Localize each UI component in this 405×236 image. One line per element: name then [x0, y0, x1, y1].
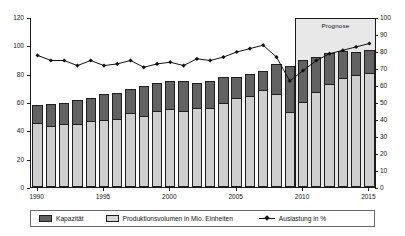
y-tick-label-right: 10	[380, 167, 387, 174]
auslastung-data-point	[181, 64, 185, 68]
y-tick-label-right: 80	[380, 48, 387, 55]
auslastung-data-point	[208, 58, 212, 62]
legend-label-kapazitaet: Kapazität	[56, 215, 84, 222]
x-tick-label: 2000	[162, 193, 176, 200]
auslastung-data-point	[89, 58, 93, 62]
y-tick-label-right: 90	[380, 31, 387, 38]
chart-legend: Kapazität Produktionsvolumen in Mio. Ein…	[30, 210, 375, 227]
auslastung-data-point	[155, 62, 159, 66]
kapazitaet-swatch-icon	[39, 215, 52, 222]
y-tick-label-right: 50	[380, 99, 387, 106]
y-tick-label-right: 20	[380, 150, 387, 157]
auslastung-data-point	[36, 53, 40, 57]
auslastung-data-point	[367, 41, 371, 45]
x-tick-label: 2015	[361, 193, 375, 200]
auslastung-data-point	[75, 64, 79, 68]
auslastung-line	[38, 44, 370, 81]
plot-area: Prognose	[30, 18, 375, 188]
auslastung-data-point	[62, 58, 66, 62]
x-tick-label: 2010	[295, 193, 309, 200]
auslastung-data-point	[327, 52, 331, 56]
legend-item-auslastung[interactable]: Auslastung in %	[259, 211, 326, 226]
y-tick-label-right: 100	[380, 14, 391, 21]
y-tick-label-left: 60	[2, 99, 24, 106]
y-tick-label-right: 0	[380, 184, 384, 191]
chart-figure: 020406080100120 0102030405060708090100 P…	[0, 0, 405, 236]
y-tick-label-right: 40	[380, 116, 387, 123]
y-tick-label-left: 120	[2, 14, 24, 21]
x-tick	[236, 188, 237, 191]
auslastung-data-point	[248, 47, 252, 51]
auslastung-data-point	[195, 57, 199, 61]
y-tick-label-left: 100	[2, 42, 24, 49]
y-tick-label-right: 30	[380, 133, 387, 140]
auslastung-data-point	[102, 64, 106, 68]
auslastung-data-point	[142, 65, 146, 69]
auslastung-data-point	[221, 55, 225, 59]
x-tick-label: 1990	[29, 193, 43, 200]
x-tick	[37, 188, 38, 191]
legend-label-produktionsvolumen: Produktionsvolumen in Mio. Einheiten	[123, 215, 233, 222]
x-tick-label: 1995	[96, 193, 110, 200]
y-tick-right	[375, 188, 378, 189]
x-tick	[368, 188, 369, 191]
legend-item-kapazitaet[interactable]: Kapazität	[39, 211, 84, 226]
produktionsvolumen-swatch-icon	[106, 215, 119, 222]
y-tick-label-right: 60	[380, 82, 387, 89]
y-tick-label-right: 70	[380, 65, 387, 72]
auslastung-data-point	[354, 45, 358, 49]
auslastung-line-series	[31, 18, 376, 188]
y-tick-label-left: 20	[2, 156, 24, 163]
y-tick-left	[27, 188, 30, 189]
legend-item-produktionsvolumen[interactable]: Produktionsvolumen in Mio. Einheiten	[106, 211, 233, 226]
x-tick-label: 2005	[228, 193, 242, 200]
auslastung-data-point	[115, 62, 119, 66]
auslastung-data-point	[341, 48, 345, 52]
auslastung-data-point	[128, 58, 132, 62]
x-tick	[169, 188, 170, 191]
auslastung-data-point	[49, 58, 53, 62]
x-tick	[103, 188, 104, 191]
auslastung-data-point	[235, 50, 239, 54]
legend-label-auslastung: Auslastung in %	[279, 215, 326, 222]
y-tick-label-left: 80	[2, 71, 24, 78]
y-tick-label-left: 40	[2, 127, 24, 134]
auslastung-data-point	[168, 60, 172, 64]
y-tick-label-left: 0	[2, 184, 24, 191]
auslastung-line-marker-icon	[259, 215, 275, 222]
x-tick	[302, 188, 303, 191]
